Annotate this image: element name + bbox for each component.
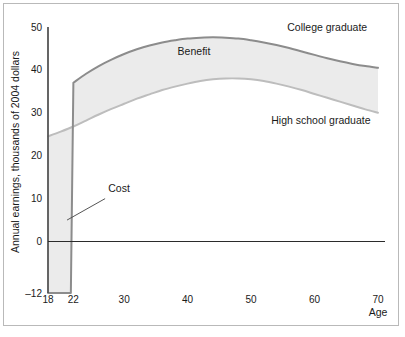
annotation-high-school-graduate: High school graduate <box>271 114 370 126</box>
x-tick-60: 60 <box>309 294 321 305</box>
x-tick-labels: 18223040506070 <box>42 294 384 305</box>
annotation-college-graduate: College graduate <box>287 21 367 33</box>
x-tick-40: 40 <box>182 294 194 305</box>
y-tick-10: 10 <box>31 193 43 204</box>
y-tick-20: 20 <box>31 150 43 161</box>
annotation-cost: Cost <box>108 182 130 194</box>
cost-region <box>48 127 73 293</box>
shaded-regions <box>48 37 378 293</box>
earnings-area-chart: –1201020304050 18223040506070 Annual ear… <box>0 0 405 337</box>
x-tick-30: 30 <box>119 294 131 305</box>
x-axis-title: Age <box>369 306 388 318</box>
chart-figure: –1201020304050 18223040506070 Annual ear… <box>0 0 405 337</box>
annotation-benefit: Benefit <box>178 45 211 57</box>
y-tick-neg12: –12 <box>25 288 42 299</box>
y-tick-30: 30 <box>31 107 43 118</box>
x-tick-70: 70 <box>372 294 384 305</box>
y-tick-50: 50 <box>31 22 43 33</box>
y-tick-40: 40 <box>31 64 43 75</box>
x-tick-22: 22 <box>68 294 80 305</box>
x-tick-50: 50 <box>246 294 258 305</box>
y-tick-0: 0 <box>36 236 42 247</box>
x-tick-18: 18 <box>42 294 54 305</box>
y-axis-title: Annual earnings, thousands of 2004 dolla… <box>9 51 21 253</box>
y-tick-labels: –1201020304050 <box>25 22 42 299</box>
